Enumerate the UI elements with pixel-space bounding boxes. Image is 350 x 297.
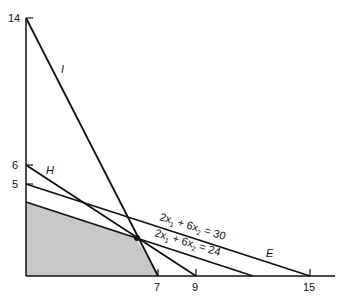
x-tick-label-7: 7: [154, 281, 160, 293]
label-H: H: [46, 164, 54, 176]
label-E: E: [266, 247, 274, 259]
y-tick-label-5: 5: [12, 178, 18, 190]
optimal-point: [134, 235, 140, 241]
y-tick-label-6: 6: [12, 159, 18, 171]
label-I: I: [61, 63, 64, 75]
lp-diagram: 14 6 5 7 9 15 I H E 2x1+ 6x2= 30 2x1+ 6x…: [0, 0, 350, 297]
x-tick-label-15: 15: [303, 281, 315, 293]
y-tick-label-14: 14: [8, 12, 20, 24]
x-tick-label-9: 9: [192, 281, 198, 293]
